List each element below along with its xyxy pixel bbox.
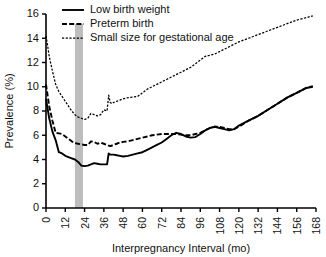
legend-label-0: Low birth weight — [90, 3, 170, 15]
x-tick-label: 108 — [214, 217, 226, 235]
y-tick-label: 16 — [27, 7, 39, 19]
prevalence-chart-figure: 0246810121416012243648607284961081201321… — [0, 0, 326, 257]
y-tick-label: 4 — [33, 153, 39, 165]
x-tick-label: 132 — [252, 217, 264, 235]
chart-svg: 0246810121416012243648607284961081201321… — [0, 0, 326, 257]
y-tick-label: 10 — [27, 80, 39, 92]
y-tick-label: 8 — [33, 104, 39, 116]
y-tick-label: 12 — [27, 56, 39, 68]
y-axis-label: Prevalence (%) — [3, 73, 15, 148]
x-tick-label: 144 — [271, 217, 283, 235]
optimal-interval-band — [75, 24, 83, 208]
x-tick-label: 60 — [136, 217, 148, 229]
legend-label-1: Preterm birth — [90, 17, 154, 29]
x-tick-label: 96 — [194, 217, 206, 229]
x-tick-label: 48 — [117, 217, 129, 229]
x-tick-label: 156 — [291, 217, 303, 235]
x-tick-label: 0 — [40, 217, 52, 223]
x-tick-label: 12 — [59, 217, 71, 229]
y-tick-label: 6 — [33, 129, 39, 141]
x-tick-label: 84 — [175, 217, 187, 229]
x-tick-label: 36 — [98, 217, 110, 229]
x-tick-label: 168 — [310, 217, 322, 235]
x-tick-label: 24 — [79, 217, 91, 229]
legend-label-2: Small size for gestational age — [90, 31, 234, 43]
y-tick-label: 14 — [27, 32, 39, 44]
y-tick-label: 2 — [33, 177, 39, 189]
x-axis-label: Interpregnancy Interval (mo) — [112, 242, 250, 254]
series-dashed — [46, 84, 313, 146]
series-solid — [46, 87, 313, 166]
x-tick-label: 72 — [156, 217, 168, 229]
y-tick-label: 0 — [33, 201, 39, 213]
x-tick-label: 120 — [233, 217, 245, 235]
